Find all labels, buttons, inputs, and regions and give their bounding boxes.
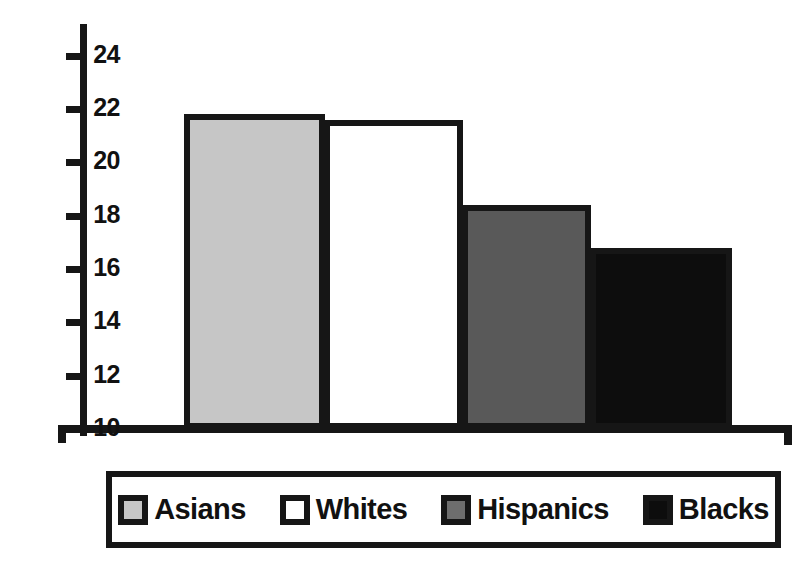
- legend-item-blacks: Blacks: [643, 495, 769, 525]
- legend-label: Hispanics: [477, 495, 609, 524]
- y-tick-label: 12: [62, 362, 120, 387]
- chart-legend: AsiansWhitesHispanicsBlacks: [106, 471, 781, 548]
- bar-hispanics: [462, 205, 591, 429]
- legend-swatch-icon: [118, 495, 148, 525]
- y-tick-label: 24: [62, 42, 120, 67]
- y-tick-label: 20: [62, 148, 120, 173]
- legend-label: Whites: [316, 495, 407, 524]
- bar-whites: [324, 120, 463, 429]
- legend-item-hispanics: Hispanics: [441, 495, 609, 525]
- y-tick-label: 16: [62, 255, 120, 280]
- bar-chart: 1012141618202224 AsiansWhitesHispanicsBl…: [0, 0, 812, 567]
- legend-item-asians: Asians: [118, 495, 246, 525]
- y-tick-label: 14: [62, 308, 120, 333]
- legend-label: Asians: [154, 495, 246, 524]
- y-tick-label: 18: [62, 202, 120, 227]
- legend-swatch-icon: [280, 495, 310, 525]
- bar-asians: [184, 114, 325, 429]
- plot-area: 1012141618202224: [0, 0, 812, 460]
- y-tick-label: 22: [62, 95, 120, 120]
- legend-swatch-icon: [441, 495, 471, 525]
- x-axis-right-cap: [784, 425, 792, 445]
- legend-swatch-icon: [643, 495, 673, 525]
- bar-blacks: [590, 248, 732, 429]
- legend-item-whites: Whites: [280, 495, 407, 525]
- y-tick-label: 10: [62, 415, 120, 440]
- legend-label: Blacks: [679, 495, 769, 524]
